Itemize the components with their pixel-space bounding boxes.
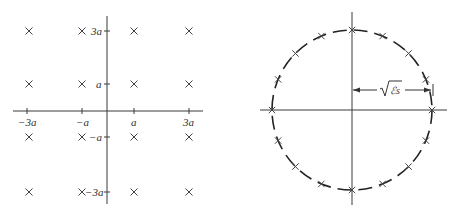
constellation-point bbox=[292, 50, 298, 56]
constellation-point bbox=[26, 28, 33, 35]
constellation-point bbox=[26, 189, 33, 196]
constellation-point bbox=[379, 33, 385, 39]
arrow-left-icon bbox=[353, 88, 360, 93]
constellation-point bbox=[318, 33, 324, 39]
constellation-point bbox=[405, 163, 411, 169]
qam-y-label: −a bbox=[89, 131, 102, 143]
constellation-figure: −3a −a a 3a 3a a −a −3a ℰs bbox=[0, 0, 464, 214]
qam-x-label: 3a bbox=[182, 116, 195, 128]
constellation-point bbox=[318, 181, 324, 187]
constellation-point bbox=[405, 50, 411, 56]
constellation-point bbox=[275, 137, 281, 143]
constellation-point bbox=[275, 76, 281, 82]
constellation-point bbox=[131, 81, 138, 88]
constellation-point bbox=[186, 134, 193, 141]
constellation-point bbox=[292, 163, 298, 169]
constellation-point bbox=[26, 81, 33, 88]
constellation-point bbox=[79, 134, 86, 141]
qam-y-label: 3a bbox=[90, 25, 103, 37]
constellation-point bbox=[26, 134, 33, 141]
constellation-point bbox=[379, 181, 385, 187]
constellation-point bbox=[79, 28, 86, 35]
constellation-point bbox=[131, 134, 138, 141]
constellation-point bbox=[186, 28, 193, 35]
constellation-point bbox=[423, 76, 429, 82]
qam-y-label: −3a bbox=[85, 186, 104, 198]
qam-diagram: −3a −a a 3a 3a a −a −3a bbox=[13, 16, 203, 204]
constellation-point bbox=[186, 189, 193, 196]
psk-diagram: ℰs bbox=[260, 12, 447, 205]
constellation-point bbox=[186, 81, 193, 88]
constellation-point bbox=[423, 137, 429, 143]
qam-x-label: a bbox=[131, 116, 137, 128]
qam-y-label: a bbox=[96, 78, 102, 90]
radius-dimension: ℰs bbox=[353, 81, 433, 96]
radius-label: ℰs bbox=[390, 85, 400, 96]
qam-x-label: −a bbox=[76, 116, 89, 128]
constellation-point bbox=[79, 81, 86, 88]
constellation-point bbox=[131, 28, 138, 35]
qam-x-label: −3a bbox=[18, 116, 37, 128]
constellation-point bbox=[131, 189, 138, 196]
